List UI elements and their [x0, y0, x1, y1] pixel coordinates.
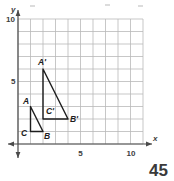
coordinate-plane-graph: y x 10 5 5 10 A B C A' B' C': [0, 0, 174, 181]
figure-container: y x 10 5 5 10 A B C A' B' C' 45: [0, 0, 174, 181]
vertex-label-C-prime: C': [46, 106, 55, 116]
x-tick-label-10: 10: [127, 149, 136, 158]
vertex-label-B-prime: B': [70, 114, 79, 124]
x-axis-label: x: [152, 134, 158, 143]
vertex-label-A-prime: A': [37, 57, 47, 67]
x-axis-arrow-right: [146, 142, 152, 147]
x-tick-label-5: 5: [78, 149, 83, 158]
vertex-label-A: A: [22, 96, 29, 106]
y-axis-label: y: [10, 5, 16, 14]
y-axis-arrow-up: [16, 10, 21, 16]
page-number: 45: [149, 162, 168, 179]
x-axis-arrow-left: [8, 142, 14, 147]
grid-lines: [18, 19, 143, 144]
vertex-label-C: C: [21, 128, 28, 138]
vertex-label-B: B: [44, 131, 50, 141]
y-tick-label-10: 10: [6, 15, 15, 24]
y-axis-arrow-down: [16, 152, 21, 158]
y-tick-label-5: 5: [11, 77, 16, 86]
